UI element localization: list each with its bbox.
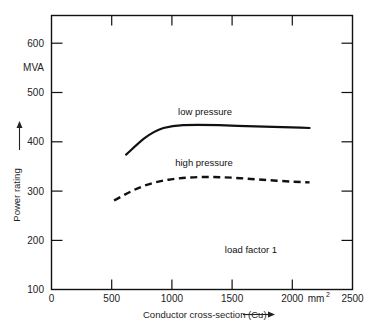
load-factor-annotation: load factor 1 [225, 244, 277, 255]
y-tick-label-500: 500 [27, 87, 44, 98]
y-tick-label-600: 600 [27, 38, 44, 49]
series-high-pressure-curve [114, 177, 310, 201]
power-rating-chart: 600 500 400 300 200 100 MVA 0 500 1000 1… [0, 0, 371, 325]
chart-container: 600 500 400 300 200 100 MVA 0 500 1000 1… [0, 0, 371, 325]
series-low-pressure-curve [126, 125, 310, 155]
right-axis-ticks [342, 43, 353, 240]
y-axis-unit-label: MVA [23, 62, 44, 73]
x-axis-unit-label: mm [308, 293, 325, 304]
y-tick-label-100: 100 [27, 284, 44, 295]
x-tick-label-1000: 1000 [161, 293, 184, 304]
x-tick-label-0: 0 [49, 293, 55, 304]
top-axis-ticks [112, 16, 293, 26]
y-axis-title: Power rating [11, 168, 22, 221]
y-axis-arrow-icon [17, 121, 23, 150]
bottom-axis-ticks [112, 280, 293, 290]
y-tick-label-300: 300 [27, 186, 44, 197]
y-tick-label-400: 400 [27, 136, 44, 147]
series-label-low-pressure: low pressure [178, 106, 232, 117]
plot-frame [52, 16, 353, 290]
x-axis-unit-exponent: 2 [326, 291, 330, 298]
x-tick-label-1500: 1500 [221, 293, 244, 304]
left-axis-ticks [52, 43, 63, 240]
x-tick-label-2000: 2000 [281, 293, 304, 304]
y-tick-label-200: 200 [27, 235, 44, 246]
series-label-high-pressure: high pressure [175, 157, 233, 168]
x-tick-label-2500: 2500 [341, 293, 364, 304]
x-tick-label-500: 500 [103, 293, 120, 304]
